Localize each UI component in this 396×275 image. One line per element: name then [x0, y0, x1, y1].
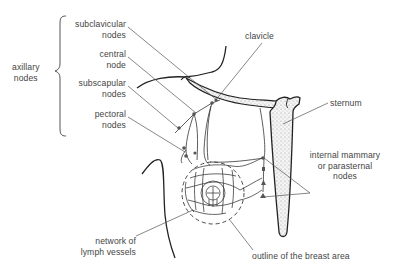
- label-line: network of: [60, 236, 136, 247]
- label-subscapular-nodes: subscapular nodes: [62, 78, 126, 99]
- label-line: nodes: [297, 171, 393, 182]
- label-central-node: central node: [62, 49, 126, 70]
- label-line: axillary: [12, 62, 40, 73]
- label-axillary-nodes: axillary nodes: [12, 62, 40, 83]
- label-line: pectoral: [62, 109, 126, 120]
- label-line: lymph vessels: [60, 247, 136, 258]
- label-internal-mammary-nodes: internal mammary or parasternal nodes: [297, 150, 393, 182]
- label-line: or parasternal: [297, 161, 393, 172]
- body-outline: [137, 46, 226, 258]
- label-subclavicular-nodes: subclavicular nodes: [62, 19, 126, 40]
- label-line: nodes: [62, 89, 126, 100]
- label-network-of-lymph-vessels: network of lymph vessels: [60, 236, 136, 257]
- label-sternum: sternum: [330, 98, 362, 109]
- lymph-node-diagram: axillary nodes subclavicular nodes centr…: [0, 0, 396, 275]
- label-line: internal mammary: [297, 150, 393, 161]
- label-line: central: [62, 49, 126, 60]
- label-clavicle: clavicle: [245, 31, 274, 42]
- label-line: subclavicular: [62, 19, 126, 30]
- axillary-lymph-chains: [175, 100, 220, 165]
- label-line: subscapular: [62, 78, 126, 89]
- label-outline-of-breast-area: outline of the breast area: [252, 251, 350, 262]
- label-pectoral-nodes: pectoral nodes: [62, 109, 126, 130]
- leader-lines: [128, 27, 328, 250]
- label-line: nodes: [12, 73, 40, 84]
- label-line: node: [62, 60, 126, 71]
- parasternal-chain: [207, 106, 265, 192]
- anatomy-drawing: [0, 0, 396, 275]
- label-line: nodes: [62, 30, 126, 41]
- label-line: nodes: [62, 120, 126, 131]
